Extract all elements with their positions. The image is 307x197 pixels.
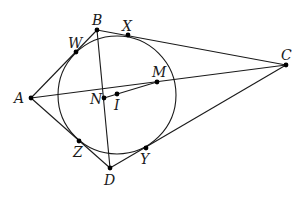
label-Y: Y	[140, 151, 151, 167]
label-A: A	[12, 90, 24, 106]
label-N: N	[89, 91, 103, 107]
label-I: I	[113, 97, 120, 113]
segment-AB	[31, 30, 97, 98]
point-M	[155, 80, 160, 85]
segment-NM	[104, 82, 157, 98]
point-C	[284, 63, 289, 68]
label-C: C	[281, 47, 292, 63]
label-M: M	[151, 64, 167, 80]
label-X: X	[121, 18, 133, 34]
point-N	[102, 96, 107, 101]
segment-CD	[110, 65, 286, 168]
label-B: B	[91, 12, 102, 28]
point-D	[108, 166, 113, 171]
segment-DA	[31, 98, 110, 168]
segment-BC	[97, 30, 286, 65]
label-D: D	[103, 172, 115, 188]
point-I	[115, 92, 120, 97]
label-W: W	[68, 35, 84, 51]
point-Y	[144, 146, 149, 151]
point-Z	[77, 139, 82, 144]
geometry-diagram: A B C D W X Y Z M N I	[0, 0, 307, 197]
point-A	[29, 96, 34, 101]
point-B	[95, 28, 100, 33]
label-Z: Z	[72, 144, 83, 160]
